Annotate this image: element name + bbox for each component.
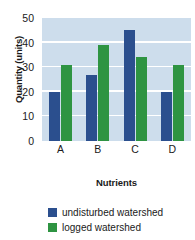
- y-axis-tick-labels: 01020304050: [0, 18, 38, 141]
- legend-swatch-icon: [48, 223, 57, 232]
- legend-swatch-icon: [48, 208, 57, 217]
- y-tick-label: 30: [22, 62, 34, 73]
- bar-undisturbed-watershed-D: [161, 92, 172, 141]
- y-tick-label: 20: [22, 87, 34, 98]
- bar-logged-watershed-A: [61, 65, 72, 141]
- bar-logged-watershed-D: [173, 65, 184, 141]
- y-tick-label: 0: [28, 136, 34, 147]
- x-tick-label: A: [57, 143, 64, 155]
- legend-label: undisturbed watershed: [62, 208, 163, 218]
- y-tick-label: 10: [22, 111, 34, 122]
- bar-undisturbed-watershed-C: [124, 30, 135, 141]
- x-tick-label: B: [94, 143, 101, 155]
- x-axis-title: Nutrients: [42, 177, 191, 188]
- bars-layer: [42, 18, 191, 141]
- bar-undisturbed-watershed-A: [49, 92, 60, 141]
- x-tick-label: D: [169, 143, 177, 155]
- bar-logged-watershed-C: [136, 57, 147, 141]
- bar-logged-watershed-B: [98, 45, 109, 141]
- legend-item-undisturbed-watershed: undisturbed watershed: [48, 206, 193, 219]
- x-tick-label: C: [131, 143, 139, 155]
- chart-legend: undisturbed watershedlogged watershed: [48, 206, 193, 236]
- legend-label: logged watershed: [62, 223, 141, 233]
- bar-chart-figure: Quantity (units) 01020304050 ABCD Nutrie…: [0, 0, 195, 240]
- bar-undisturbed-watershed-B: [86, 75, 97, 141]
- plot-region: [42, 18, 191, 141]
- legend-item-logged-watershed: logged watershed: [48, 221, 193, 234]
- x-axis-tick-labels: ABCD: [42, 143, 191, 159]
- y-tick-label: 50: [22, 13, 34, 24]
- y-tick-label: 40: [22, 37, 34, 48]
